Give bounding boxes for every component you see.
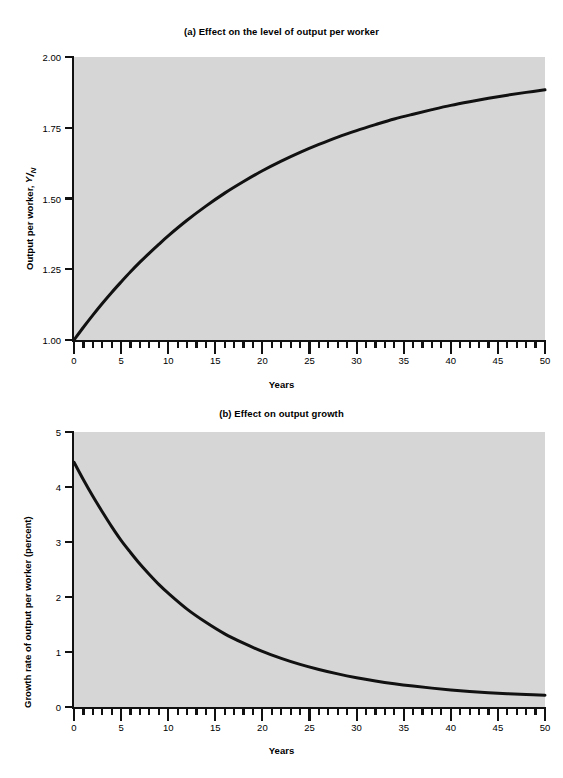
- x-axis-minor-tick: [421, 340, 423, 348]
- x-axis-major-tick: [450, 707, 452, 721]
- x-axis-minor-tick: [139, 340, 141, 348]
- x-axis-minor-tick: [365, 707, 367, 715]
- x-axis-minor-tick: [478, 340, 480, 348]
- x-axis-minor-tick: [299, 340, 301, 348]
- x-axis-major-tick: [261, 707, 263, 721]
- x-axis-minor-tick: [139, 707, 141, 715]
- x-axis-minor-tick: [318, 340, 320, 348]
- panel-a-y-axis-title-text: Output per worker,: [24, 183, 35, 270]
- x-axis-tick-label: 15: [200, 355, 230, 366]
- x-axis-minor-tick: [224, 340, 226, 348]
- x-axis-minor-tick: [487, 340, 489, 348]
- x-axis-major-tick: [544, 340, 546, 354]
- x-axis-tick-label: 35: [389, 355, 419, 366]
- figure-panel-a: (a) Effect on the level of output per wo…: [0, 0, 563, 390]
- x-axis-minor-tick: [384, 707, 386, 715]
- x-axis-minor-tick: [101, 707, 103, 715]
- x-axis-minor-tick: [290, 707, 292, 715]
- x-axis-tick-label: 25: [295, 355, 325, 366]
- y-axis-tick-label: 1.25: [35, 264, 61, 275]
- x-axis-minor-tick: [327, 707, 329, 715]
- x-axis-minor-tick: [440, 707, 442, 715]
- x-axis-minor-tick: [129, 340, 131, 348]
- x-axis-major-tick: [120, 707, 122, 721]
- x-axis-tick-label: 50: [530, 722, 560, 733]
- x-axis-minor-tick: [421, 707, 423, 715]
- x-axis-tick-label: 20: [247, 355, 277, 366]
- x-axis-major-tick: [261, 340, 263, 354]
- x-axis-minor-tick: [516, 707, 518, 715]
- x-axis-minor-tick: [412, 707, 414, 715]
- x-axis-tick-label: 30: [342, 722, 372, 733]
- x-axis-minor-tick: [158, 340, 160, 348]
- y-axis-tick-label: 1.75: [35, 122, 61, 133]
- panel-b-y-axis-title: Growth rate of output per worker (percen…: [22, 516, 33, 708]
- y-axis-tick-label: 4: [53, 482, 61, 493]
- x-axis-minor-tick: [111, 340, 113, 348]
- x-axis-minor-tick: [205, 340, 207, 348]
- x-axis-minor-tick: [346, 707, 348, 715]
- x-axis-tick-label: 0: [59, 722, 89, 733]
- x-axis-minor-tick: [82, 340, 84, 348]
- x-axis-minor-tick: [384, 340, 386, 348]
- x-axis-minor-tick: [525, 340, 527, 348]
- x-axis-minor-tick: [459, 707, 461, 715]
- x-axis-minor-tick: [195, 340, 197, 348]
- x-axis-major-tick: [450, 340, 452, 354]
- x-axis-minor-tick: [374, 340, 376, 348]
- x-axis-minor-tick: [393, 707, 395, 715]
- panel-a-curve-canvas: [74, 57, 547, 342]
- y-axis-tick-label: 1.00: [35, 335, 61, 346]
- panel-b-curve-canvas: [74, 432, 547, 709]
- y-axis-tick: [65, 541, 74, 543]
- x-axis-minor-tick: [365, 340, 367, 348]
- x-axis-minor-tick: [252, 707, 254, 715]
- x-axis-major-tick: [167, 707, 169, 721]
- x-axis-major-tick: [356, 340, 358, 354]
- x-axis-tick-label: 45: [483, 722, 513, 733]
- x-axis-tick-label: 40: [436, 355, 466, 366]
- x-axis-minor-tick: [205, 707, 207, 715]
- x-axis-major-tick: [544, 707, 546, 721]
- y-axis-tick: [65, 596, 74, 598]
- panel-a-y-axis-title: Output per worker, Y/N: [24, 168, 36, 270]
- x-axis-tick-label: 30: [342, 355, 372, 366]
- x-axis-major-tick: [73, 340, 75, 354]
- x-axis-minor-tick: [374, 707, 376, 715]
- x-axis-minor-tick: [271, 707, 273, 715]
- x-axis-major-tick: [308, 340, 310, 354]
- x-axis-minor-tick: [487, 707, 489, 715]
- x-axis-major-tick: [214, 707, 216, 721]
- panel-b-title: (b) Effect on output growth: [0, 408, 563, 419]
- x-axis-minor-tick: [393, 340, 395, 348]
- x-axis-minor-tick: [506, 340, 508, 348]
- x-axis-major-tick: [497, 707, 499, 721]
- x-axis-minor-tick: [290, 340, 292, 348]
- x-axis-minor-tick: [337, 340, 339, 348]
- x-axis-tick-label: 5: [106, 722, 136, 733]
- x-axis-major-tick: [497, 340, 499, 354]
- x-axis-major-tick: [308, 707, 310, 721]
- x-axis-minor-tick: [280, 340, 282, 348]
- x-axis-minor-tick: [92, 340, 94, 348]
- y-axis-tick: [65, 268, 74, 270]
- x-axis-tick-label: 20: [247, 722, 277, 733]
- x-axis-major-tick: [403, 707, 405, 721]
- fraction-denominator: N: [29, 168, 38, 174]
- figure-panel-b: (b) Effect on output growth Growth rate …: [0, 388, 563, 778]
- x-axis-tick-label: 5: [106, 355, 136, 366]
- x-axis-tick-label: 25: [295, 722, 325, 733]
- x-axis-minor-tick: [469, 340, 471, 348]
- y-axis-tick-label: 1: [53, 647, 61, 658]
- x-axis-major-tick: [356, 707, 358, 721]
- x-axis-tick-label: 0: [59, 355, 89, 366]
- x-axis-tick-label: 35: [389, 722, 419, 733]
- x-axis-tick-label: 45: [483, 355, 513, 366]
- y-axis-tick: [65, 127, 74, 129]
- x-axis-minor-tick: [252, 340, 254, 348]
- y-axis-tick: [65, 56, 74, 58]
- panel-b-x-axis-title: Years: [0, 745, 563, 756]
- y-axis-tick-label: 2: [53, 592, 61, 603]
- y-axis-tick-label: 1.50: [35, 193, 61, 204]
- x-axis-minor-tick: [346, 340, 348, 348]
